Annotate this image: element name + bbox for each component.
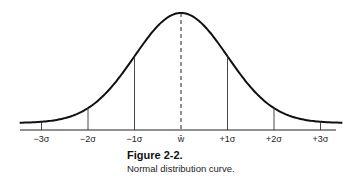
tick-labels: −3σ−2σ−1σw̄+1σ+2σ+3σ xyxy=(34,134,329,144)
figure-caption-text: Normal distribution curve. xyxy=(127,163,235,174)
x-tick-label: −2σ xyxy=(80,134,96,144)
x-tick-label: +3σ xyxy=(313,134,329,144)
figure-caption-title: Figure 2-2. xyxy=(127,149,183,161)
sigma-lines xyxy=(42,13,321,130)
figure: −3σ−2σ−1σw̄+1σ+2σ+3σ Figure 2-2. Normal … xyxy=(0,0,357,182)
x-tick-label: +1σ xyxy=(220,134,236,144)
x-tick-label: −3σ xyxy=(34,134,50,144)
x-tick-label: w̄ xyxy=(177,134,185,144)
x-tick-label: +2σ xyxy=(266,134,282,144)
x-tick-label: −1σ xyxy=(127,134,143,144)
